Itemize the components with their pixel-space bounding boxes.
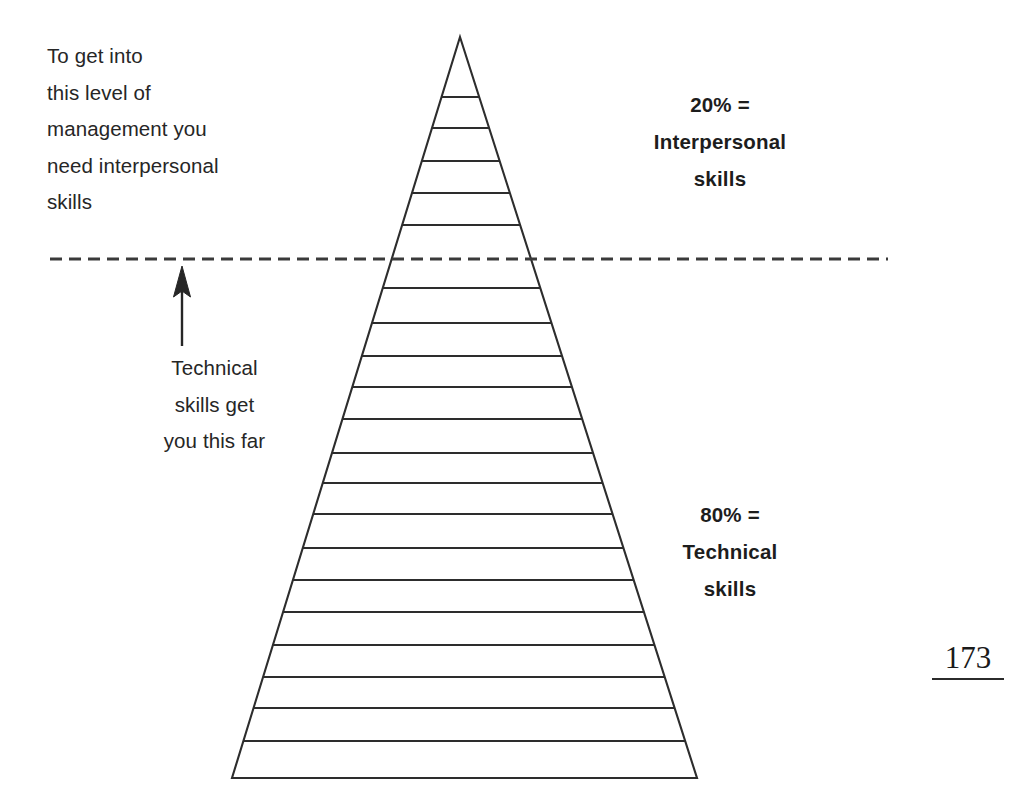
figure-page: To get into this level of management you… [0, 0, 1034, 810]
callout-technical-skills: 80% = Technical skills [610, 496, 850, 607]
technical-skills-arrow-caption: Technical skills get you this far [122, 350, 307, 460]
page-number: 173 [932, 641, 1004, 680]
up-arrow-icon [174, 266, 191, 346]
callout-interpersonal-skills: 20% = Interpersonal skills [600, 86, 840, 197]
interpersonal-skills-note: To get into this level of management you… [47, 38, 307, 221]
